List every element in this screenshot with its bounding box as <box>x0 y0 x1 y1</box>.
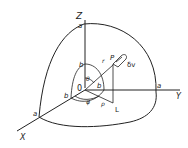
label-a-y: a <box>157 82 161 90</box>
spherical-shell-diagram: Z a b θ 0 b b φ ρ L r P δv a Y a X <box>0 0 188 148</box>
label-P: P <box>110 54 115 62</box>
x-axis <box>17 90 85 131</box>
label-phi: φ <box>86 98 90 106</box>
label-a-x: a <box>33 110 37 118</box>
y-axis-label: Y <box>176 92 182 101</box>
x-axis-label: X <box>19 133 26 142</box>
origin-label: 0 <box>77 84 82 93</box>
label-delta-v: δv <box>127 61 135 69</box>
label-a-z: a <box>78 22 82 30</box>
label-b-y: b <box>97 82 102 90</box>
label-b-z: b <box>79 61 84 69</box>
label-rho: ρ <box>101 100 105 108</box>
label-theta: θ <box>86 75 90 82</box>
label-r: r <box>102 57 105 64</box>
label-b-x: b <box>64 92 69 100</box>
z-axis-label: Z <box>75 11 83 21</box>
label-L: L <box>115 106 119 114</box>
volume-element <box>113 55 127 67</box>
